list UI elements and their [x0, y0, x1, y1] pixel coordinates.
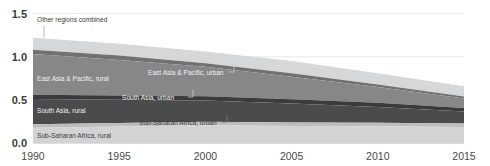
annotation-east-asia-pacific-urban: East Asia & Pacific, urban: [148, 69, 224, 76]
annotation-east-asia-pacific-rural: East Asia & Pacific, rural: [37, 75, 109, 82]
annotation-sub-saharan-africa-urban: Sub-Saharan Africa, urban: [139, 119, 217, 126]
x-tick-label: 2005: [280, 150, 304, 162]
chart-canvas: 1.5 1.0 0.5 0.0 1990 1995 2000 2005 2010…: [0, 0, 490, 166]
x-tick-label: 2010: [366, 150, 390, 162]
annotation-other-regions-combined: Other regions combined: [37, 16, 108, 24]
x-axis-ticks: 1990 1995 2000 2005 2010 2015: [21, 150, 476, 162]
annotation-sub-saharan-africa-rural: Sub-Saharan Africa, rural: [37, 132, 112, 139]
y-axis-ticks: 1.5 1.0 0.5 0.0: [12, 8, 27, 150]
y-tick-label: 1.0: [12, 51, 27, 63]
x-tick-label: 2015: [452, 150, 476, 162]
x-tick-label: 1990: [21, 150, 45, 162]
y-tick-label: 0.0: [12, 137, 27, 149]
y-tick-label: 1.5: [12, 8, 27, 20]
area-series-group: [33, 38, 464, 144]
annotation-south-asia-urban: South Asia, urban: [122, 94, 174, 101]
x-tick-label: 2000: [194, 150, 218, 162]
annotation-south-asia-rural: South Asia, rural: [37, 107, 86, 114]
x-tick-label: 1995: [108, 150, 132, 162]
y-tick-label: 0.5: [12, 94, 27, 106]
stacked-area-chart: 1.5 1.0 0.5 0.0 1990 1995 2000 2005 2010…: [0, 0, 490, 166]
